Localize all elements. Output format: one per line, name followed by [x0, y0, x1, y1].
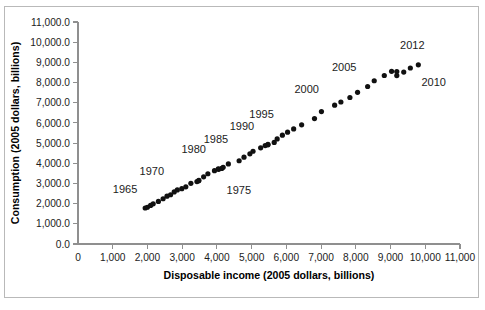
x-axis-title: Disposable income (2005 dollars, billion…: [164, 269, 375, 281]
x-tick-label-11000: 11,000: [445, 252, 476, 263]
year-label-2012: 2012: [400, 39, 424, 51]
x-tick-label-9000: 9,000: [378, 252, 404, 263]
x-tick-label-5000: 5,000: [239, 252, 265, 263]
data-point-1993: [275, 136, 280, 141]
data-point-2005: [372, 78, 377, 83]
year-label-1970: 1970: [140, 165, 164, 177]
data-point-1987: [250, 149, 255, 154]
y-tick-label-1000: 1,000.0: [36, 218, 70, 229]
axis-lines: [78, 22, 460, 244]
figure-frame: 0.01,000.02,000.03,000.04,000.05,000.06,…: [4, 6, 479, 298]
year-label-1990: 1990: [230, 120, 254, 132]
x-tick-label-2000: 2,000: [135, 252, 161, 263]
year-label-1980: 1980: [181, 143, 205, 155]
data-point-2009: [394, 73, 399, 78]
data-point-2006: [382, 73, 387, 78]
x-tick-label-8000: 8,000: [343, 252, 369, 263]
x-tick-label-7000: 7,000: [308, 252, 334, 263]
data-point-1976: [201, 174, 206, 179]
y-tick-label-7000: 7,000.0: [36, 97, 70, 108]
data-point-1996: [291, 126, 296, 131]
data-point-1997: [299, 122, 304, 127]
x-axis-ticks: 01,0002,0003,0004,0005,0006,0007,0008,00…: [75, 244, 475, 263]
x-tick-label-6000: 6,000: [274, 252, 300, 263]
data-point-1963: [151, 201, 156, 206]
year-label-1965: 1965: [113, 183, 137, 195]
y-tick-label-3000: 3,000.0: [36, 178, 70, 189]
data-points: [143, 62, 421, 210]
data-point-2001: [338, 99, 343, 104]
y-tick-label-8000: 8,000.0: [36, 77, 70, 88]
year-label-1995: 1995: [249, 108, 273, 120]
data-point-1999: [319, 109, 324, 114]
x-tick-label-3000: 3,000: [169, 252, 195, 263]
year-label-2005: 2005: [332, 61, 356, 73]
data-point-1988: [258, 145, 263, 150]
x-tick-label-0: 0: [75, 252, 81, 263]
data-point-2007: [389, 69, 394, 74]
data-point-2002: [347, 95, 352, 100]
data-point-1995: [285, 130, 290, 135]
data-point-1983: [226, 161, 231, 166]
year-label-1985: 1985: [204, 133, 228, 145]
data-point-2000: [332, 103, 337, 108]
y-tick-label-5000: 5,000.0: [36, 138, 70, 149]
x-tick-label-4000: 4,000: [204, 252, 230, 263]
data-point-2004: [365, 84, 370, 89]
y-axis-title: Consumption (2005 dollars, billions): [9, 42, 21, 224]
y-tick-label-4000: 4,000.0: [36, 158, 70, 169]
x-tick-label-10000: 10,000: [410, 252, 441, 263]
year-annotations: 1965197019751980198519901995200020052010…: [113, 39, 446, 197]
year-label-2010: 2010: [421, 76, 445, 88]
data-point-1972: [188, 181, 193, 186]
data-point-2010: [401, 69, 406, 74]
x-tick-label-1000: 1,000: [100, 252, 126, 263]
data-point-1985: [241, 155, 246, 160]
data-point-2003: [355, 90, 360, 95]
data-point-1984: [237, 158, 242, 163]
y-axis-ticks: 0.01,000.02,000.03,000.04,000.05,000.06,…: [30, 17, 78, 250]
data-point-1977: [205, 171, 210, 176]
data-point-1971: [183, 184, 188, 189]
data-point-2012: [416, 62, 421, 67]
data-point-1975: [196, 178, 201, 183]
year-label-2000: 2000: [294, 83, 318, 95]
y-tick-label-0: 0.0: [56, 239, 70, 250]
data-point-1969: [175, 187, 180, 192]
y-tick-label-9000: 9,000.0: [36, 57, 70, 68]
data-point-1994: [280, 133, 285, 138]
y-tick-label-2000: 2,000.0: [36, 198, 70, 209]
y-tick-label-11000: 11,000.0: [31, 17, 70, 28]
year-label-1975: 1975: [227, 184, 251, 196]
data-point-1998: [312, 116, 317, 121]
scatter-chart: 0.01,000.02,000.03,000.04,000.05,000.06,…: [5, 7, 478, 297]
data-point-1991: [265, 142, 270, 147]
y-tick-label-10000: 10,000.0: [30, 37, 70, 48]
y-tick-label-6000: 6,000.0: [36, 118, 70, 129]
data-point-2011: [408, 65, 413, 70]
data-point-1964: [156, 199, 161, 204]
data-point-1982: [221, 165, 226, 170]
